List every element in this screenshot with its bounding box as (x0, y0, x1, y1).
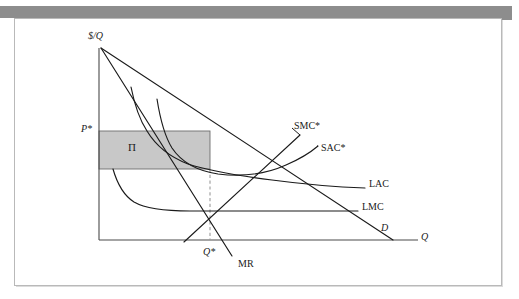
y-axis-label: $/Q (88, 31, 103, 41)
smc-label: SMC* (294, 121, 320, 131)
lmc-label: LMC (362, 202, 384, 212)
price-tick-label: P* (81, 124, 92, 134)
demand-label: D (381, 223, 388, 233)
profit-area-label: Π (128, 142, 136, 153)
sac-label: SAC* (321, 143, 345, 153)
economics-plot (0, 0, 519, 299)
mr-label: MR (238, 259, 254, 269)
quantity-tick-label: Q* (203, 247, 215, 257)
lac-label: LAC (369, 179, 389, 189)
x-axis-label: Q (421, 232, 428, 242)
figure-page: $/Q Q P* Q* Π D MR SMC* SAC* LAC LMC (0, 0, 519, 299)
profit-rectangle (99, 131, 210, 169)
